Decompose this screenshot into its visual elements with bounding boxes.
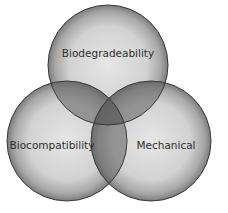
venn-diagram: Biodegradeability Biocompatibility Mecha…: [0, 0, 228, 213]
label-biocompatibility: Biocompatibility: [10, 139, 95, 151]
label-biodegradeability: Biodegradeability: [62, 47, 154, 59]
label-mechanical: Mechanical: [136, 139, 195, 151]
